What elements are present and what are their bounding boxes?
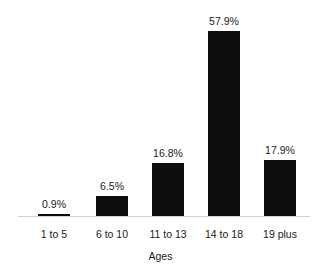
x-axis-title: Ages: [0, 249, 321, 263]
category-label: 14 to 18: [195, 227, 253, 241]
bar-rect[interactable]: [208, 31, 240, 217]
bar-group[interactable]: 6.5%: [83, 0, 141, 217]
bar-rect[interactable]: [264, 160, 296, 218]
category-label: 19 plus: [251, 227, 309, 241]
bar-group[interactable]: 0.9%: [25, 0, 83, 217]
x-axis-line: [18, 216, 310, 217]
bar-value-label: 6.5%: [100, 180, 124, 192]
bar-value-label: 57.9%: [209, 15, 239, 27]
category-label: 11 to 13: [139, 227, 197, 241]
bar-group[interactable]: 17.9%: [251, 0, 309, 217]
bar-group[interactable]: 16.8%: [139, 0, 197, 217]
category-label: 1 to 5: [25, 227, 83, 241]
bar-rect[interactable]: [96, 196, 128, 217]
bar-group[interactable]: 57.9%: [195, 0, 253, 217]
bar-value-label: 0.9%: [42, 198, 66, 210]
x-axis-tick-labels: 1 to 5 6 to 10 11 to 13 14 to 18 19 plus: [0, 227, 321, 243]
bar-value-label: 16.8%: [153, 147, 183, 159]
bar-rect[interactable]: [152, 163, 184, 217]
bar-chart: 0.9% 6.5% 16.8% 57.9% 17.9% 1 to 5 6 to …: [0, 0, 321, 280]
category-label: 6 to 10: [83, 227, 141, 241]
plot-area: 0.9% 6.5% 16.8% 57.9% 17.9%: [0, 0, 321, 217]
bar-value-label: 17.9%: [265, 144, 295, 156]
